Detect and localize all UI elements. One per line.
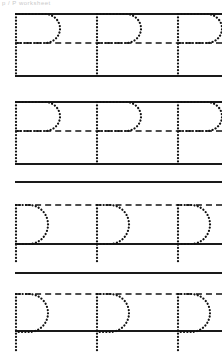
trace-letter-uppercase-p[interactable] [96,0,177,90]
trace-letter-lowercase-p[interactable] [177,178,222,268]
practice-row-1 [0,0,222,90]
practice-row-4 [0,269,222,358]
trace-letter-uppercase-p[interactable] [15,88,96,178]
dotted-letter-outline [177,88,222,178]
trace-letter-uppercase-p[interactable] [96,88,177,178]
dotted-letter-outline [96,88,177,178]
dotted-letter-outline [177,0,222,90]
dotted-letter-outline [15,88,96,178]
dotted-letter-outline [96,269,177,358]
dotted-letter-outline [15,269,96,358]
trace-letter-lowercase-p[interactable] [177,269,222,358]
trace-letter-uppercase-p[interactable] [15,0,96,90]
trace-letter-lowercase-p[interactable] [15,269,96,358]
dotted-letter-outline [15,178,96,268]
trace-letter-lowercase-p[interactable] [96,269,177,358]
trace-letter-uppercase-p[interactable] [177,0,222,90]
practice-row-2 [0,88,222,178]
dotted-letter-outline [96,178,177,268]
trace-letter-uppercase-p[interactable] [177,88,222,178]
handwriting-worksheet: p / P worksheet [0,0,222,358]
trace-letter-lowercase-p[interactable] [15,178,96,268]
dotted-letter-outline [177,178,222,268]
dotted-letter-outline [177,269,222,358]
trace-letter-lowercase-p[interactable] [96,178,177,268]
dotted-letter-outline [96,0,177,90]
practice-row-3 [0,178,222,268]
dotted-letter-outline [15,0,96,90]
